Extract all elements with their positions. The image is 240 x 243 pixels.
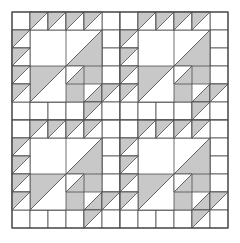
plain-cell <box>12 210 30 228</box>
plain-cell <box>102 174 120 192</box>
plain-cell <box>138 210 156 228</box>
plain-cell <box>12 12 30 30</box>
plain-cell <box>174 210 192 228</box>
plain-cell <box>210 120 228 138</box>
plain-cell <box>12 102 30 120</box>
plain-cell <box>210 48 228 66</box>
plain-cell <box>102 66 120 84</box>
plain-cell <box>48 102 66 120</box>
plain-cell <box>102 210 120 228</box>
plain-cell <box>138 102 156 120</box>
plain-cell <box>210 138 228 156</box>
plain-cell <box>120 12 138 30</box>
plain-cell <box>12 120 30 138</box>
plain-cell <box>210 210 228 228</box>
plain-cell <box>174 102 192 120</box>
plain-cell <box>30 210 48 228</box>
plain-cell <box>210 12 228 30</box>
plain-cell <box>102 48 120 66</box>
plain-cell <box>210 30 228 48</box>
quilt-blocks-layer <box>12 12 228 228</box>
plain-cell <box>210 156 228 174</box>
block-top-left <box>12 12 120 120</box>
plain-cell <box>210 102 228 120</box>
plain-cell <box>120 120 138 138</box>
plain-cell <box>102 156 120 174</box>
plain-cell <box>210 174 228 192</box>
plain-cell <box>210 66 228 84</box>
plain-cell <box>30 102 48 120</box>
plain-cell <box>102 102 120 120</box>
plain-cell <box>102 138 120 156</box>
plain-cell <box>48 210 66 228</box>
block-top-right <box>120 12 228 120</box>
plain-cell <box>156 102 174 120</box>
block-bottom-right <box>120 120 228 228</box>
plain-cell <box>120 102 138 120</box>
plain-cell <box>66 102 84 120</box>
plain-cell <box>102 12 120 30</box>
plain-cell <box>66 210 84 228</box>
plain-cell <box>156 210 174 228</box>
plain-cell <box>102 30 120 48</box>
plain-cell <box>120 210 138 228</box>
block-bottom-left <box>12 120 120 228</box>
plain-cell <box>102 120 120 138</box>
quilt-pattern-figure <box>0 0 240 243</box>
